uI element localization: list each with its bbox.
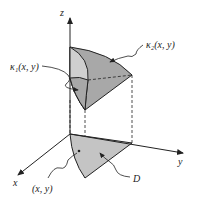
upper-surface-label: κ₂(x, y) <box>146 39 175 51</box>
point-label: (x, y) <box>32 183 53 195</box>
point-marker <box>78 150 81 153</box>
y-axis-label: y <box>177 156 183 167</box>
x-axis-label: x <box>12 177 18 188</box>
lower-surface-label: κ₁(x, y) <box>10 61 39 73</box>
region-label: D <box>132 173 141 184</box>
region-d <box>70 134 132 178</box>
z-axis-label: z <box>59 7 64 18</box>
x-axis <box>18 134 70 175</box>
diagram-canvas: z x y κ₂(x, y) κ₁(x, y) (x, y) D <box>0 0 200 207</box>
solid-lower-shade <box>70 77 88 110</box>
solid-diagram: z x y κ₂(x, y) κ₁(x, y) (x, y) D <box>0 0 200 207</box>
